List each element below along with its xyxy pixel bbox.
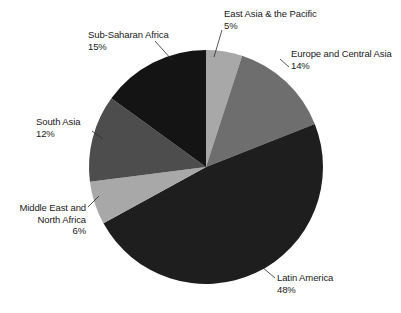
slice-label-east-asia-pacific-name: East Asia & the Pacific	[224, 8, 317, 19]
slice-label-middle-east-north-africa-line2: North Africa	[8, 214, 86, 226]
pie-chart-svg	[0, 0, 401, 313]
slice-label-europe-central-asia: Europe and Central Asia 14%	[291, 48, 392, 71]
pie-chart: East Asia & the Pacific 5% Europe and Ce…	[0, 0, 401, 313]
slice-label-europe-central-asia-pct: 14%	[291, 60, 392, 72]
slice-label-middle-east-north-africa-pct: 6%	[8, 225, 86, 237]
slice-label-east-asia-pacific: East Asia & the Pacific 5%	[224, 8, 317, 31]
slice-label-south-asia-pct: 12%	[36, 128, 80, 140]
slice-label-sub-saharan-africa-name: Sub-Saharan Africa	[88, 29, 169, 40]
slice-label-east-asia-pacific-pct: 5%	[224, 20, 317, 32]
leader-line-europe	[280, 59, 289, 67]
slice-label-south-asia-name: South Asia	[36, 116, 80, 127]
pie-slices	[89, 50, 323, 284]
slice-label-latin-america-pct: 48%	[277, 284, 333, 296]
slice-label-latin-america-name: Latin America	[277, 272, 333, 283]
slice-label-europe-central-asia-name: Europe and Central Asia	[291, 48, 392, 59]
slice-label-sub-saharan-africa-pct: 15%	[88, 41, 169, 53]
slice-label-south-asia: South Asia 12%	[36, 116, 80, 139]
slice-label-sub-saharan-africa: Sub-Saharan Africa 15%	[88, 29, 169, 52]
slice-label-middle-east-north-africa: Middle East and North Africa 6%	[8, 202, 86, 237]
slice-label-middle-east-north-africa-line1: Middle East and	[19, 202, 86, 213]
slice-label-latin-america: Latin America 48%	[277, 272, 333, 295]
leader-line-latin-america	[262, 267, 275, 278]
